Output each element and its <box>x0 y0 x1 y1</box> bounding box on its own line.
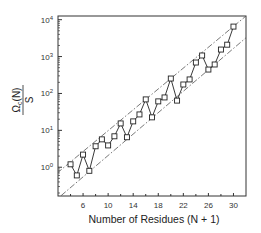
reference-line-upper-bound <box>57 16 246 173</box>
data-point <box>137 112 142 117</box>
reference-lines <box>57 16 246 196</box>
y-tick-label: 103 <box>41 52 54 62</box>
data-point <box>106 143 111 148</box>
x-tick-label: 6 <box>81 201 86 210</box>
data-point <box>162 95 167 100</box>
data-point <box>175 98 180 103</box>
data-point <box>99 137 104 142</box>
y-tick-label: 101 <box>41 125 54 135</box>
plot-frame <box>58 16 246 196</box>
data-point <box>168 76 173 81</box>
x-axis-label: Number of Residues (N + 1) <box>88 213 219 225</box>
x-tick-label: 30 <box>229 201 238 210</box>
data-point <box>143 97 148 102</box>
x-tick-label: 26 <box>204 201 213 210</box>
data-point <box>225 42 230 47</box>
y-axis-label: Ωc(N)S <box>11 85 35 115</box>
data-point <box>187 77 192 82</box>
y-tick-label: 100 <box>41 162 54 172</box>
data-point <box>206 67 211 72</box>
data-point <box>156 99 161 104</box>
data-point <box>212 62 217 67</box>
data-point <box>231 24 236 29</box>
x-tick-label: 10 <box>104 201 113 210</box>
x-tick-label: 18 <box>154 201 163 210</box>
data-point <box>68 162 73 167</box>
y-label-denominator: S <box>24 96 35 103</box>
y-axis-ticks: 100101102103104 <box>41 15 62 193</box>
data-point <box>74 173 79 178</box>
data-point <box>87 168 92 173</box>
data-point <box>81 152 86 157</box>
y-tick-label: 104 <box>41 15 54 25</box>
y-label-numerator: Ωc(N) <box>11 88 23 113</box>
data-point <box>131 119 136 124</box>
data-point <box>93 144 98 149</box>
data-series <box>68 24 236 178</box>
data-point <box>124 135 129 140</box>
data-point <box>112 134 117 139</box>
y-tick-label: 102 <box>41 88 54 98</box>
chart: 6101418222630 100101102103104 Number of … <box>0 0 261 233</box>
data-point <box>218 47 223 52</box>
x-tick-label: 22 <box>179 201 188 210</box>
data-point <box>118 121 123 126</box>
data-point <box>181 82 186 87</box>
data-point <box>200 53 205 58</box>
series-line <box>71 27 234 176</box>
data-point <box>193 60 198 65</box>
data-point <box>150 115 155 120</box>
x-tick-label: 14 <box>129 201 138 210</box>
